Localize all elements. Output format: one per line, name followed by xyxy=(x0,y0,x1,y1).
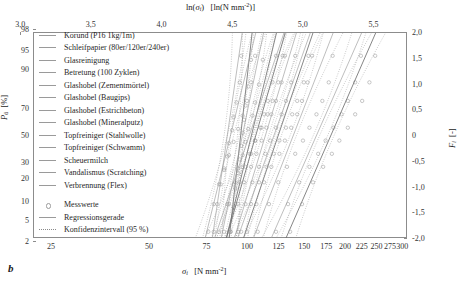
tick-label-left: 50 xyxy=(9,131,29,140)
confidence-interval xyxy=(275,33,367,238)
tick-mark-right xyxy=(404,238,407,239)
data-point xyxy=(257,181,260,184)
data-point xyxy=(244,202,247,205)
solid-line-icon xyxy=(38,168,57,178)
legend-item-label: Korund (P16 1kg/1m) xyxy=(64,31,135,40)
legend-item-label: Topfreiniger (Schwamm) xyxy=(64,143,145,152)
tick-label-left: 98 xyxy=(9,25,29,34)
tick-label-left: 10 xyxy=(9,196,29,205)
confidence-interval xyxy=(253,33,324,238)
regression-line xyxy=(270,33,363,238)
data-point xyxy=(264,152,267,155)
legend-item-label: Messwerte xyxy=(64,200,99,209)
legend-item-series: Verbrennung (Flex) xyxy=(38,179,169,192)
data-point xyxy=(286,202,289,205)
series-group xyxy=(204,33,295,238)
tick-label-top: 4,0 xyxy=(156,20,166,29)
legend-item-label: Scheuermilch xyxy=(64,156,108,165)
solid-line-icon xyxy=(38,43,57,53)
data-point xyxy=(283,54,286,57)
regression-line xyxy=(243,33,314,238)
data-point xyxy=(266,113,269,116)
tick-label-left: 5 xyxy=(9,215,29,224)
data-point xyxy=(284,126,287,129)
tick-label-bottom: 250 xyxy=(371,242,383,251)
solid-line-icon xyxy=(38,55,57,65)
legend-gap xyxy=(38,192,169,199)
data-point xyxy=(315,113,318,116)
legend-item-marker: Messwerte xyxy=(38,199,169,212)
confidence-interval xyxy=(224,33,295,238)
series-group xyxy=(211,33,275,238)
confidence-interval xyxy=(280,33,373,238)
tick-label-bottom: 25 xyxy=(47,242,55,251)
tick-label-left: 2 xyxy=(9,236,29,245)
data-point xyxy=(311,181,314,184)
tick-label-top: 4,5 xyxy=(227,20,237,29)
tick-mark-left xyxy=(33,241,36,242)
data-point xyxy=(261,58,264,61)
tick-label-right: 1,0 xyxy=(412,79,422,88)
tick-label-top: 5,5 xyxy=(369,20,379,29)
tick-label-bottom: 150 xyxy=(298,242,310,251)
data-point xyxy=(212,230,215,233)
series-group xyxy=(275,33,387,238)
tick-label-left: 20 xyxy=(9,174,29,183)
data-point xyxy=(373,54,376,57)
confidence-interval xyxy=(263,33,345,238)
tick-mark-left xyxy=(33,29,36,30)
data-point xyxy=(262,113,265,116)
legend-item-series: Topfreiniger (Schwamm) xyxy=(38,142,169,155)
data-point xyxy=(242,181,245,184)
data-point xyxy=(321,99,324,102)
solid-line-icon xyxy=(38,93,57,103)
data-point xyxy=(249,81,252,84)
tick-label-bottom: 100 xyxy=(241,242,253,251)
data-point xyxy=(268,139,271,142)
legend-item-series: Betretung (100 Zyklen) xyxy=(38,67,169,80)
data-point xyxy=(297,181,300,184)
data-point xyxy=(217,230,220,233)
data-point xyxy=(278,152,281,155)
tick-label-bottom: 50 xyxy=(145,242,153,251)
data-point xyxy=(296,113,299,116)
tick-label-top: 5,0 xyxy=(298,20,308,29)
tick-label-right: 1,5 xyxy=(412,53,422,62)
data-point xyxy=(283,139,286,142)
tick-label-top: 3,5 xyxy=(86,20,96,29)
data-point xyxy=(278,139,281,142)
data-point xyxy=(353,113,356,116)
tick-label-right: 2,0 xyxy=(412,28,422,37)
data-point xyxy=(321,165,324,168)
marker-circle-icon xyxy=(38,200,57,210)
confidence-interval xyxy=(247,33,322,238)
regression-line xyxy=(226,33,277,238)
legend-item-label: Konfidenzintervall (95 %) xyxy=(64,225,148,234)
data-point xyxy=(267,202,270,205)
solid-line-icon xyxy=(38,130,57,140)
data-point xyxy=(271,99,274,102)
data-point xyxy=(302,81,305,84)
legend-item-label: Schleifpapier (80er/120er/240er) xyxy=(64,43,169,52)
data-point xyxy=(253,54,256,57)
legend-item-label: Betretung (100 Zyklen) xyxy=(64,68,140,77)
data-point xyxy=(277,181,280,184)
data-point xyxy=(296,99,299,102)
solid-line-icon xyxy=(38,143,57,153)
data-point xyxy=(308,165,311,168)
tick-label-left: 30 xyxy=(9,158,29,167)
solid-line-icon xyxy=(38,118,57,128)
legend-item-series: Glasreinigung xyxy=(38,54,169,67)
regression-line xyxy=(252,33,334,238)
data-point xyxy=(291,113,294,116)
data-point xyxy=(266,99,269,102)
solid-line-icon xyxy=(38,212,57,222)
regression-line xyxy=(226,33,286,238)
tick-label-bottom: 225 xyxy=(356,242,368,251)
data-point xyxy=(235,101,238,104)
data-point xyxy=(307,54,310,57)
data-point xyxy=(301,139,304,142)
tick-label-right: -1,5 xyxy=(412,208,425,217)
confidence-interval xyxy=(295,33,387,238)
legend-item-label: Verbrennung (Flex) xyxy=(64,181,127,190)
